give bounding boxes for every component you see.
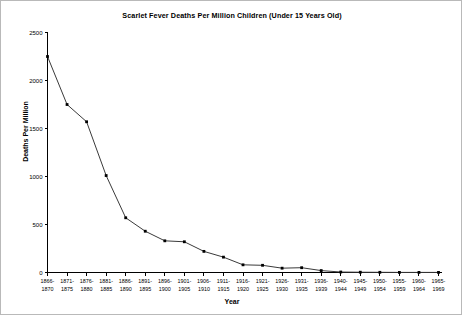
x-tick-label-start: 1945-	[353, 278, 367, 284]
x-tick-label-start: 1896-	[158, 278, 172, 284]
data-point	[163, 239, 166, 242]
y-tick-label: 0	[39, 270, 43, 276]
x-tick-label-end: 1910	[198, 286, 210, 292]
y-axis-title: Deaths Per Million	[22, 77, 29, 187]
data-point	[281, 267, 284, 270]
x-axis-title: Year	[1, 298, 462, 305]
series-line	[48, 57, 439, 273]
x-tick-label-start: 1876-	[80, 278, 94, 284]
x-tick-label-start: 1886-	[119, 278, 133, 284]
series-markers	[46, 55, 440, 274]
x-tick-label-start: 1911-	[217, 278, 231, 284]
data-point	[378, 271, 381, 274]
y-tick-label: 1000	[29, 174, 43, 180]
x-tick-label-start: 1955-	[393, 278, 407, 284]
x-tick-label-end: 1944	[335, 286, 347, 292]
data-point	[242, 263, 245, 266]
x-tick-label-start: 1871-	[60, 278, 74, 284]
data-point	[437, 271, 440, 274]
x-tick-label-start: 1950-	[373, 278, 387, 284]
x-tick-label-start: 1960-	[412, 278, 426, 284]
x-tick-label-end: 1935	[296, 286, 308, 292]
y-tick-label: 1500	[29, 126, 43, 132]
x-tick-label-end: 1905	[178, 286, 190, 292]
x-tick-label-end: 1930	[276, 286, 288, 292]
data-point	[418, 271, 421, 274]
x-tick-label-start: 1936-	[314, 278, 328, 284]
x-tick-label-start: 1906-	[197, 278, 211, 284]
x-tick-label-end: 1954	[374, 286, 386, 292]
chart-page: Scarlet Fever Deaths Per Million Childre…	[0, 0, 462, 315]
data-point	[320, 269, 323, 272]
x-tick-label-start: 1901-	[177, 278, 191, 284]
data-point	[66, 103, 69, 106]
x-tick-label-start: 1926-	[275, 278, 289, 284]
x-tick-label-end: 1885	[100, 286, 112, 292]
x-tick-label-end: 1875	[61, 286, 73, 292]
data-point	[85, 120, 88, 123]
x-tick-label-end: 1920	[237, 286, 249, 292]
data-point	[144, 230, 147, 233]
data-point	[105, 174, 108, 177]
x-tick-label-end: 1880	[81, 286, 93, 292]
data-point	[261, 264, 264, 267]
x-tick-label-start: 1921-	[256, 278, 270, 284]
x-tick-label-start: 1891-	[138, 278, 152, 284]
x-tick-label-start: 1916-	[236, 278, 250, 284]
x-tick-label-end: 1959	[393, 286, 405, 292]
data-point	[222, 256, 225, 259]
data-point	[359, 271, 362, 274]
data-point	[300, 266, 303, 269]
line-chart-plot: 05001000150020002500 1866-18701871-18751…	[1, 1, 462, 315]
data-point	[46, 55, 49, 58]
data-point	[183, 240, 186, 243]
x-tick-label-start: 1866-	[41, 278, 55, 284]
x-tick-label-end: 1969	[433, 286, 445, 292]
y-tick-label: 2500	[29, 30, 43, 36]
x-tick-label-start: 1881-	[99, 278, 113, 284]
x-tick-label-end: 1939	[315, 286, 327, 292]
y-tick-label: 500	[32, 222, 43, 228]
x-tick-labels: 1866-18701871-18751876-18801881-18851886…	[41, 278, 446, 292]
x-tick-label-end: 1949	[354, 286, 366, 292]
x-tick-label-end: 1890	[120, 286, 132, 292]
x-tick-label-end: 1915	[217, 286, 229, 292]
x-tick-label-start: 1931-	[295, 278, 309, 284]
x-tick-label-end: 1900	[159, 286, 171, 292]
x-tick-label-start: 1965-	[432, 278, 446, 284]
y-tick-labels: 05001000150020002500	[29, 30, 43, 276]
x-tick-label-end: 1870	[42, 286, 54, 292]
data-point	[398, 271, 401, 274]
data-point	[124, 216, 127, 219]
x-tick-label-end: 1964	[413, 286, 425, 292]
y-tick-label: 2000	[29, 78, 43, 84]
x-tick-label-start: 1940-	[334, 278, 348, 284]
data-point	[203, 250, 206, 253]
x-tick-label-end: 1925	[257, 286, 269, 292]
data-point	[339, 271, 342, 274]
x-tick-label-end: 1895	[139, 286, 151, 292]
